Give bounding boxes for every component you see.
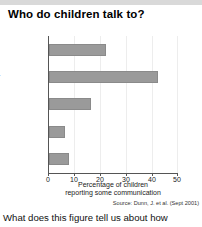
gridline-50 [177, 36, 178, 173]
x-axis-title: Percentage of children reporting some co… [48, 181, 178, 198]
x-axis-title-line2: reporting some communication [48, 189, 178, 197]
x-axis-title-line1: Percentage of children [48, 181, 178, 189]
bar-mother-and-father [49, 98, 91, 110]
gridline-30 [126, 36, 127, 173]
top-band [0, 0, 202, 5]
bar-chart-figure: No one Mother Mother and father Father O… [0, 28, 202, 208]
bar-row: No one [49, 36, 106, 63]
page-title: Who do children talk to? [8, 8, 145, 20]
bar-other [49, 153, 69, 165]
bar-mother [49, 71, 158, 83]
figure-page: Who do children talk to? No one Mother M… [0, 0, 202, 227]
bar-no-one [49, 44, 106, 56]
x-axis-line [48, 173, 178, 174]
bar-row: Mother [49, 63, 158, 90]
bar-father [49, 126, 65, 138]
gridline-40 [152, 36, 153, 173]
chart-plot-area: No one Mother Mother and father Father O… [48, 36, 178, 173]
bar-row: Mother and father [49, 91, 91, 118]
bar-row: Other [49, 146, 69, 173]
question-caption: What does this figure tell us about how [3, 212, 168, 223]
source-note: Source: Dunn, J. et al. (Sept 2001) [113, 200, 199, 206]
bar-row: Father [49, 118, 65, 145]
